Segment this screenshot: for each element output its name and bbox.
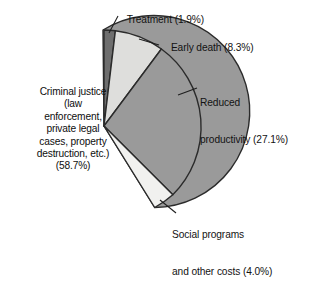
pie-label-criminal-justice-line4: private legal [14,123,132,135]
pie-label-reduced-productivity-line1: Reduced [200,97,288,109]
pie-label-criminal-justice: Criminal justice (law enforcement, priva… [14,86,132,173]
pie-label-early-death: Early death (8.3%) [160,30,254,67]
pie-label-criminal-justice-line1: Criminal justice [14,86,132,98]
pie-label-reduced-productivity: Reduced productivity (27.1%) [200,73,288,171]
pie-label-criminal-justice-line3: enforcement, [14,111,132,123]
pie-label-early-death-text: Early death (8.3%) [171,42,254,53]
pie-label-criminal-justice-line7: (58.7%) [14,160,132,172]
pie-label-criminal-justice-line2: (law [14,98,132,110]
pie-label-treatment-text: Treatment (1.9%) [127,14,204,25]
pie-label-social-programs-line2: and other costs (4.0%) [172,266,272,278]
pie-label-social-programs: Social programs and other costs (4.0%) [172,205,272,281]
pie-label-reduced-productivity-line2: productivity (27.1%) [200,134,288,146]
pie-label-criminal-justice-line5: cases, property [14,136,132,148]
pie-label-criminal-justice-line6: destruction, etc.) [14,148,132,160]
pie-label-social-programs-line1: Social programs [172,229,272,241]
